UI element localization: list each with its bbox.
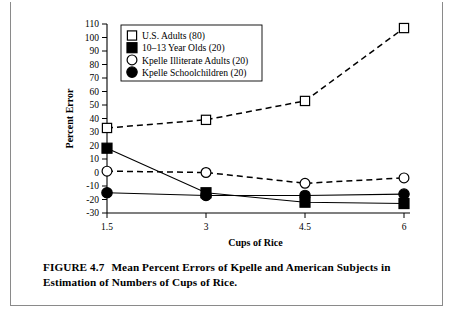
data-point: [201, 190, 211, 200]
y-tick-label: 50: [90, 100, 100, 110]
series-line: [107, 171, 404, 183]
legend-label: Kpelle Schoolchildren (20): [142, 67, 246, 79]
y-tick-label: 10: [90, 154, 100, 164]
legend-label: U.S. Adults (80): [142, 30, 205, 42]
data-point: [399, 189, 409, 199]
y-tick-label: -20: [86, 195, 99, 205]
x-axis-title: Cups of Rice: [228, 237, 283, 248]
legend-marker-filled-circle: [127, 67, 137, 77]
series-2: [102, 143, 409, 208]
series-3: [102, 166, 409, 188]
y-tick-label: 30: [90, 127, 100, 137]
data-point: [300, 96, 309, 105]
chart-legend: U.S. Adults (80)10–13 Year Olds (20)Kpel…: [121, 25, 262, 81]
series-4: [102, 188, 409, 201]
data-point: [399, 23, 408, 32]
y-tick-label: 90: [90, 46, 100, 56]
y-tick-label: 0: [94, 168, 99, 178]
y-axis-title: Percent Error: [64, 88, 75, 148]
figure-caption-number: FIGURE 4.7: [43, 261, 104, 273]
data-point: [300, 178, 310, 188]
figure-frame: 1101009080706050403020100-10-20-301.534.…: [10, 2, 443, 306]
y-tick-label: 20: [90, 141, 100, 151]
data-point: [201, 115, 210, 124]
y-tick-label: 80: [90, 60, 100, 70]
series-line: [107, 193, 404, 196]
legend-label: 10–13 Year Olds (20): [142, 42, 225, 54]
data-point: [300, 190, 310, 200]
data-point: [399, 173, 409, 183]
chart-plot-area: 1101009080706050403020100-10-20-301.534.…: [11, 2, 460, 257]
data-point: [102, 188, 112, 198]
y-tick-label: 40: [90, 114, 100, 124]
y-tick-label: 70: [90, 73, 100, 83]
y-tick-label: 110: [85, 19, 99, 29]
data-point: [399, 199, 409, 209]
line-chart: 1101009080706050403020100-10-20-301.534.…: [11, 2, 460, 257]
x-tick-label: 3: [204, 222, 209, 232]
y-tick-label: -10: [86, 181, 99, 191]
legend-label: Kpelle Illiterate Adults (20): [142, 55, 248, 67]
data-point: [102, 166, 112, 176]
legend-marker-open-square: [127, 31, 136, 40]
x-tick-label: 4.5: [299, 222, 311, 232]
legend-marker-filled-square: [127, 43, 137, 53]
x-tick-label: 6: [402, 222, 407, 232]
data-point: [102, 123, 111, 132]
figure-caption: FIGURE 4.7Mean Percent Errors of Kpelle …: [43, 260, 439, 290]
y-tick-label: -30: [86, 208, 99, 218]
x-tick-label: 1.5: [101, 222, 113, 232]
y-tick-label: 100: [85, 33, 100, 43]
data-point: [201, 168, 211, 178]
y-tick-label: 60: [90, 87, 100, 97]
legend-marker-open-circle: [127, 55, 137, 65]
data-point: [102, 143, 112, 153]
